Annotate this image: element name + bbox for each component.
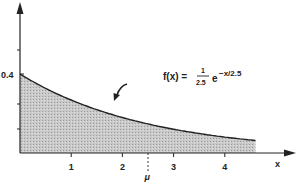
mean-label: μ: [144, 172, 151, 182]
shaded-area: [20, 74, 256, 153]
x-tick-label: 1: [69, 162, 74, 172]
svg-text:−x/2.5: −x/2.5: [219, 69, 242, 78]
svg-text:f(x) =: f(x) =: [163, 71, 187, 82]
svg-text:e: e: [212, 73, 218, 84]
exponential-density-chart: 0.4 1234 μ x f(x) = 1 2.5 e −x/2.5: [0, 0, 298, 182]
svg-text:1: 1: [201, 67, 205, 74]
function-annotation: f(x) = 1 2.5 e −x/2.5: [163, 67, 242, 86]
svg-text:2.5: 2.5: [196, 79, 206, 86]
x-axis-label: x: [275, 159, 280, 169]
y-tick-label: 0.4: [1, 70, 14, 80]
annotation-arrowhead-icon: [114, 93, 121, 101]
y-axis-arrow-icon: [17, 2, 24, 14]
x-axis-arrow-icon: [284, 150, 296, 157]
x-tick-label: 4: [222, 162, 227, 172]
x-tick-label: 2: [120, 162, 125, 172]
annotation-arrow: [117, 84, 127, 95]
x-tick-label: 3: [171, 162, 176, 172]
